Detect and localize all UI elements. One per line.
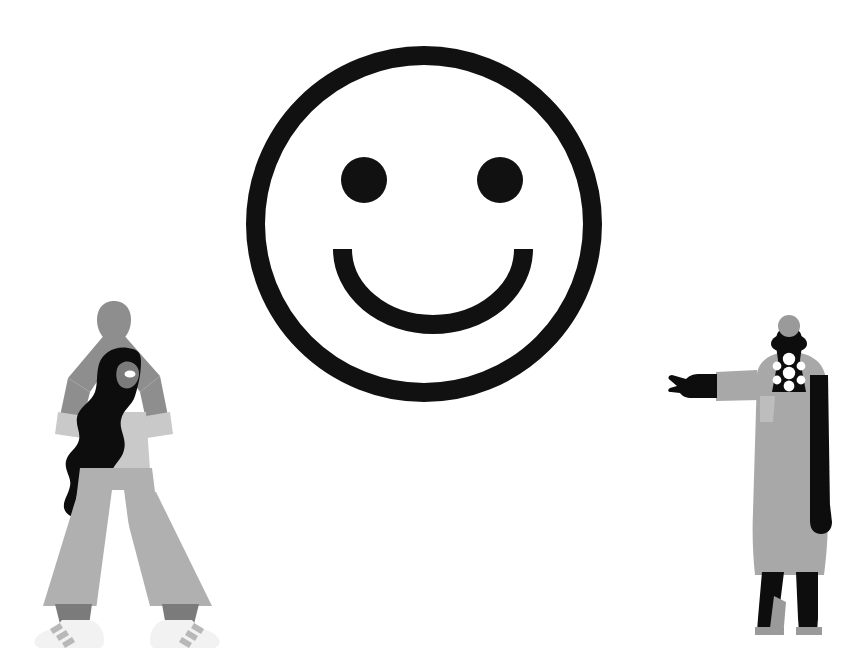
front-shoe-sole-shape xyxy=(796,627,822,635)
polka-dot-scarf-shape xyxy=(772,346,806,392)
person-pointing-illustration xyxy=(668,315,832,635)
back-shoe-sole-shape xyxy=(755,627,784,635)
illustration-canvas: Flat vector illustration: a large outlin… xyxy=(0,0,857,669)
pointing-arm-sleeve-shape xyxy=(716,370,760,401)
right-figure-person-pointing xyxy=(0,0,857,669)
hat-pompom-icon xyxy=(778,315,800,337)
pointing-forearm-glove-shape xyxy=(668,374,717,398)
hanging-arm-shape xyxy=(810,375,830,525)
front-leg-shape xyxy=(796,572,818,632)
hanging-hand-shape xyxy=(810,505,832,534)
coat-lapel-shape xyxy=(760,396,775,422)
